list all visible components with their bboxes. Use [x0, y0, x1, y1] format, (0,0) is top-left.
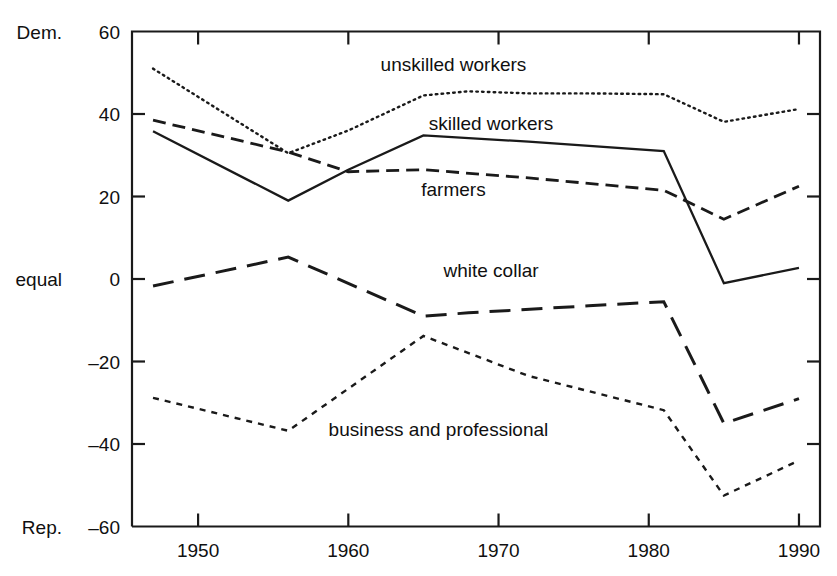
- series-line: [153, 257, 799, 423]
- y-axis-anchor-label: Dem.: [17, 22, 62, 43]
- x-tick-label: 1960: [327, 540, 369, 561]
- y-axis-anchor-label: Rep.: [22, 517, 62, 538]
- chart-svg: 6040200–20–40–60Dem.equalRep.19501960197…: [0, 0, 837, 576]
- series-label: unskilled workers: [381, 54, 527, 75]
- y-tick-label: –60: [88, 517, 120, 538]
- series-line: [153, 69, 799, 154]
- series-label: business and professional: [329, 419, 549, 440]
- series-label: farmers: [421, 179, 485, 200]
- y-tick-label: 60: [99, 22, 120, 43]
- series-label: white collar: [442, 260, 539, 281]
- line-chart: 6040200–20–40–60Dem.equalRep.19501960197…: [0, 0, 837, 576]
- x-tick-label: 1980: [628, 540, 670, 561]
- y-tick-label: 40: [99, 104, 120, 125]
- series-line: [153, 336, 799, 496]
- x-tick-label: 1990: [778, 540, 820, 561]
- y-tick-label: 20: [99, 187, 120, 208]
- series-label: skilled workers: [429, 113, 554, 134]
- series-line: [153, 120, 799, 219]
- y-tick-label: –40: [88, 434, 120, 455]
- y-tick-label: –20: [88, 352, 120, 373]
- x-tick-label: 1950: [177, 540, 219, 561]
- y-tick-label: 0: [109, 269, 120, 290]
- series-labels: unskilled workersskilled workersfarmersw…: [329, 54, 554, 440]
- y-axis-anchor-label: equal: [16, 269, 63, 290]
- x-axis: 19501960197019801990: [177, 32, 820, 561]
- x-tick-label: 1970: [477, 540, 519, 561]
